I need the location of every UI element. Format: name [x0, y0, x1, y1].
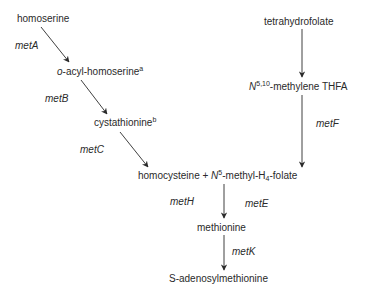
gene-metC: metC	[80, 144, 104, 156]
gene-metF: metF	[316, 118, 339, 130]
arrow-oacyl-to-cystathionine	[81, 80, 107, 114]
arrow-homoserine-to-oacyl	[41, 27, 69, 62]
arrow-cystathionine-to-homocysteine	[120, 132, 148, 167]
node-methylene-thfa: N5,10-methylene THFA	[249, 81, 347, 93]
gene-metB: metB	[45, 93, 68, 105]
node-methionine: methionine	[197, 222, 246, 234]
gene-metE: metE	[245, 198, 268, 210]
node-o-acyl-homoserine: o-acyl-homoserinea	[57, 66, 143, 78]
pathway-arrows	[0, 0, 372, 299]
gene-metK: metK	[232, 246, 255, 258]
node-s-adenosylmethionine: S-adenosylmethionine	[169, 273, 268, 285]
node-cystathionine: cystathionineb	[94, 117, 156, 129]
node-homocysteine-methylfolate: homocysteine + N5-methyl-H4-folate	[138, 170, 297, 182]
gene-metH: metH	[170, 196, 194, 208]
node-homoserine: homoserine	[17, 13, 69, 25]
node-tetrahydrofolate: tetrahydrofolate	[264, 16, 334, 28]
gene-metA: metA	[15, 40, 38, 52]
